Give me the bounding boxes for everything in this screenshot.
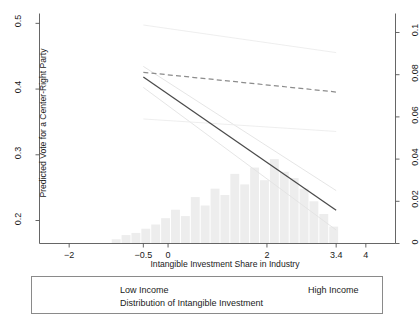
- histogram-bar: [290, 178, 299, 243]
- histogram-bar: [280, 172, 289, 244]
- y-tick-label-right: 0: [410, 229, 420, 255]
- histogram-bar: [329, 227, 338, 244]
- legend-item-low-income: Low Income: [120, 285, 169, 295]
- histogram-bar: [300, 189, 309, 244]
- histogram-bar: [240, 184, 249, 243]
- histogram-bar: [230, 174, 239, 244]
- histogram-bar: [161, 218, 170, 243]
- y-tick-label-left: 0.2: [13, 206, 23, 232]
- histogram-bar: [260, 180, 269, 243]
- histogram-bar: [171, 210, 180, 244]
- histogram-bar: [181, 216, 190, 243]
- histogram-bar: [112, 239, 121, 243]
- x-tick-label: −2: [55, 250, 83, 260]
- legend-item-high-income: High Income: [308, 285, 359, 295]
- y-tick-label-right: 0.02: [410, 186, 420, 212]
- histogram-bar: [201, 206, 210, 244]
- x-tick-label: 4: [352, 250, 380, 260]
- series-line: [143, 66, 336, 190]
- series-lines: [143, 72, 336, 210]
- legend-item-distribution: Distribution of Intangible Investment: [120, 298, 263, 308]
- histogram-bar: [191, 197, 200, 243]
- x-tick-label: 2: [253, 250, 281, 260]
- histogram-bar: [141, 229, 150, 244]
- x-tick-label: 0: [154, 250, 182, 260]
- histogram-bar: [309, 201, 318, 243]
- series-line: [143, 87, 336, 230]
- series-line: [143, 25, 336, 53]
- histogram-bar: [151, 225, 160, 244]
- y-tick-label-left: 0.5: [13, 8, 23, 34]
- histogram-bar: [122, 235, 131, 243]
- histogram-bars: [112, 159, 338, 243]
- histogram-bar: [211, 189, 220, 244]
- series-line: [143, 119, 336, 131]
- series-line: [143, 77, 336, 210]
- y-tick-label-right: 0.04: [410, 144, 420, 170]
- y-axis-title: Predicted Vote for a Center-Right Party: [38, 28, 48, 218]
- y-tick-label-left: 0.4: [13, 74, 23, 100]
- series-line: [143, 72, 336, 92]
- y-tick-label-right: 0.06: [410, 102, 420, 128]
- y-tick-label-right: 0.08: [410, 60, 420, 86]
- x-tick-label: 3.4: [322, 250, 350, 260]
- histogram-bar: [250, 168, 259, 244]
- x-axis-title: Intangible Investment Share in Industry: [55, 259, 395, 269]
- histogram-bar: [270, 159, 279, 243]
- legend: Low Income High Income Distribution of I…: [31, 276, 383, 314]
- y-tick-label-left: 0.3: [13, 140, 23, 166]
- y-tick-label-right: 0.1: [410, 17, 420, 43]
- histogram-bar: [220, 195, 229, 244]
- histogram-bar: [131, 233, 140, 244]
